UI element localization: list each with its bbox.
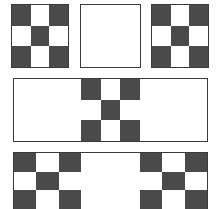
- checker-cell: [140, 172, 162, 191]
- checker-cell: [12, 26, 31, 47]
- checker-cell: [152, 5, 171, 26]
- checker-cell: [14, 190, 36, 209]
- figure-canvas: [0, 0, 217, 209]
- checker-cell: [162, 172, 184, 191]
- checker-cell: [162, 190, 184, 209]
- checker-cell: [171, 26, 190, 47]
- top-right-checker: [151, 4, 209, 68]
- checker-cell: [120, 120, 140, 141]
- checker-cell: [152, 26, 171, 47]
- checker-cell: [59, 153, 81, 172]
- checker-cell: [36, 190, 58, 209]
- checker-cell: [12, 5, 31, 26]
- checker-cell: [162, 153, 184, 172]
- top-left-checker: [11, 4, 69, 68]
- checker-cell: [185, 190, 207, 209]
- bottom-left-checker: [14, 153, 81, 209]
- checker-cell: [185, 153, 207, 172]
- checker-cell: [31, 26, 50, 47]
- checker-cell: [49, 5, 68, 26]
- checker-cell: [49, 46, 68, 67]
- checker-cell: [140, 190, 162, 209]
- checker-cell: [120, 100, 140, 121]
- checker-cell: [140, 153, 162, 172]
- middle-right-blank: [140, 79, 207, 141]
- middle-center-checker: [81, 79, 140, 141]
- checker-cell: [59, 190, 81, 209]
- checker-cell: [81, 100, 101, 121]
- checker-cell: [171, 5, 190, 26]
- checker-cell: [36, 153, 58, 172]
- checker-cell: [14, 172, 36, 191]
- checker-cell: [189, 5, 208, 26]
- checker-cell: [81, 79, 101, 100]
- checker-cell: [49, 26, 68, 47]
- checker-cell: [31, 46, 50, 67]
- bottom-right-checker: [140, 153, 207, 209]
- checker-cell: [185, 172, 207, 191]
- checker-cell: [101, 120, 121, 141]
- middle-left-blank: [14, 79, 81, 141]
- checker-cell: [189, 46, 208, 67]
- checker-cell: [152, 46, 171, 67]
- bottom-center-blank: [81, 153, 140, 209]
- checker-cell: [12, 46, 31, 67]
- checker-cell: [101, 79, 121, 100]
- checker-cell: [36, 172, 58, 191]
- checker-cell: [101, 100, 121, 121]
- checker-cell: [81, 120, 101, 141]
- checker-cell: [59, 172, 81, 191]
- checker-cell: [31, 5, 50, 26]
- checker-cell: [189, 26, 208, 47]
- bottom-row-strip: [13, 152, 208, 209]
- top-center-blank: [80, 4, 141, 68]
- checker-cell: [14, 153, 36, 172]
- checker-cell: [171, 46, 190, 67]
- middle-row-strip: [13, 78, 208, 142]
- checker-cell: [120, 79, 140, 100]
